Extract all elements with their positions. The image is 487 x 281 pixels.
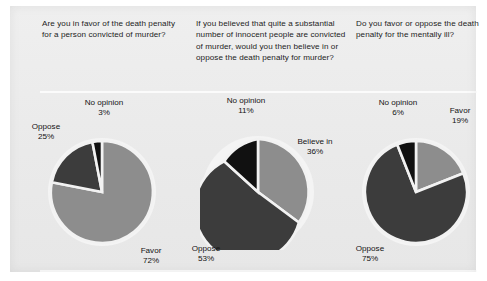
question-text-3: Do you favor or oppose the death penalty… [356, 18, 482, 41]
question-text-1: Are you in favor of the death penalty fo… [42, 18, 184, 41]
pie-graphic-3 [360, 136, 472, 248]
question-row: Are you in favor of the death penalty fo… [10, 6, 476, 86]
label-favor-1-value: 72% [128, 256, 174, 266]
pie-svg-1 [46, 136, 158, 248]
label-no-opinion-1-value: 3% [68, 108, 140, 118]
label-favor-1-name: Favor [141, 246, 162, 255]
label-no-opinion-2-value: 11% [210, 106, 282, 116]
label-oppose-2-value: 53% [182, 254, 230, 264]
label-oppose-3: Oppose 75% [346, 244, 394, 265]
label-oppose-2-name: Oppose [192, 244, 220, 253]
label-believe-in-2: Believe in 36% [284, 137, 346, 158]
label-favor-3: Favor 19% [436, 106, 484, 127]
label-favor-3-name: Favor [450, 106, 471, 115]
label-no-opinion-2: No opinion 11% [210, 96, 282, 117]
label-no-opinion-3-value: 6% [366, 108, 430, 118]
label-no-opinion-3: No opinion 6% [366, 98, 430, 119]
label-no-opinion-1-name: No opinion [85, 98, 124, 107]
label-no-opinion-2-name: No opinion [227, 96, 266, 105]
label-no-opinion-1: No opinion 3% [68, 98, 140, 119]
label-oppose-1-value: 25% [24, 132, 68, 142]
divider-top [40, 91, 477, 93]
label-no-opinion-3-name: No opinion [379, 98, 418, 107]
label-favor-3-value: 19% [436, 116, 484, 126]
pie-graphic-1 [46, 136, 158, 248]
divider-bottom [40, 270, 477, 272]
question-text-2: If you believed that quite a substantial… [196, 18, 350, 63]
label-believe-in-2-name: Believe in [297, 137, 332, 146]
label-oppose-3-value: 75% [346, 254, 394, 264]
figure-panel: Are you in favor of the death penalty fo… [10, 6, 476, 272]
label-believe-in-2-value: 36% [284, 147, 346, 157]
label-oppose-3-name: Oppose [356, 244, 384, 253]
label-oppose-2: Oppose 53% [182, 244, 230, 265]
pie-chart-1: No opinion 3% Oppose 25% Favor 72% [24, 96, 184, 274]
label-oppose-1: Oppose 25% [24, 122, 68, 143]
label-favor-1: Favor 72% [128, 246, 174, 267]
pie-chart-3: No opinion 6% Favor 19% Oppose 75% [342, 96, 487, 274]
pie-svg-3 [360, 136, 472, 248]
pie-chart-2: No opinion 11% Believe in 36% Oppose 53% [180, 96, 346, 274]
poll-figure: Are you in favor of the death penalty fo… [0, 0, 487, 281]
label-oppose-1-name: Oppose [32, 122, 60, 131]
